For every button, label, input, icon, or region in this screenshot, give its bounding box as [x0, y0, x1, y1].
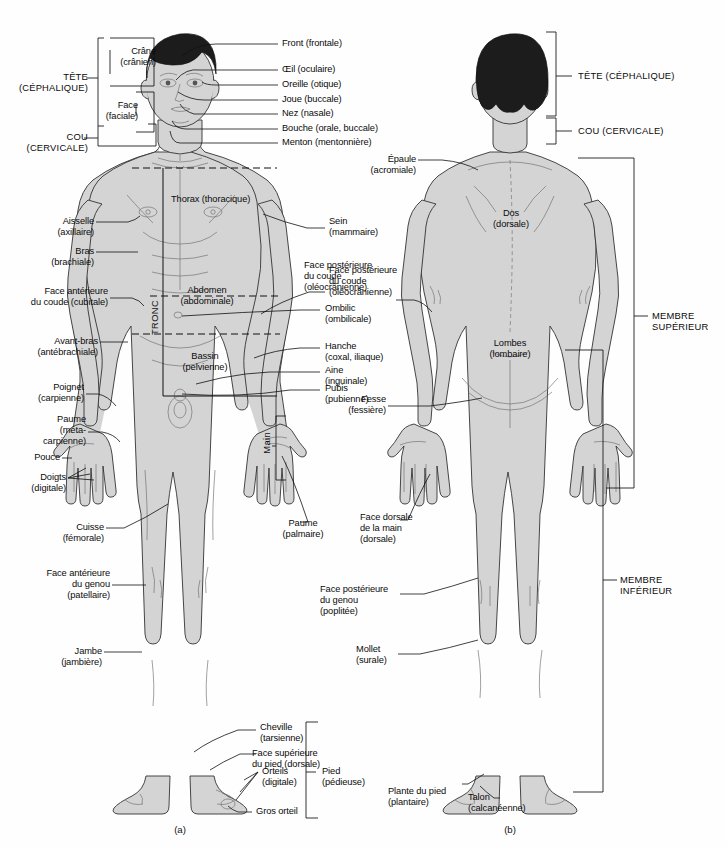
label-nez: Nez (nasale) [282, 108, 334, 119]
label-lombes: Lombes (lombaire) [472, 338, 548, 360]
label-aisselle: Aisselle (axillaire) [16, 216, 94, 238]
label-poignet: Poignet (carpienne) [2, 382, 84, 404]
label-sein: Sein (mammaire) [329, 216, 378, 238]
anatomy-diagram-page: Crâne (crânien) Face (faciale) TÊTE (CÉP… [0, 0, 727, 847]
label-cou-cervicale: COU (CERVICALE) [578, 125, 664, 136]
label-membre-inferieur: MEMBRE INFÉRIEUR [620, 574, 672, 596]
caption-posterior: (b) [480, 824, 540, 835]
label-plante-pied: Plante du pied (plantaire) [388, 786, 446, 808]
label-tete-cephalique: TÊTE (CÉPHALIQUE) [578, 70, 675, 81]
label-face-anterieure-coude: Face antérieure du coude (cubitale) [2, 286, 108, 308]
label-paume-palmaire: Paume (palmaire) [268, 518, 338, 540]
label-hanche: Hanche (coxal, iliaque) [325, 341, 383, 363]
label-face-anterieure-genou: Face antérieure du genou (patellaire) [10, 568, 110, 602]
label-bouche: Bouche (orale, buccale) [282, 123, 378, 134]
label-pied: Pied (pédieuse) [322, 766, 365, 788]
label-epaule: Épaule (acromiale) [354, 154, 416, 176]
label-face-posterieure-genou: Face postérieure du genou (poplitée) [320, 584, 388, 618]
label-gros-orteil: Gros orteil [256, 806, 298, 817]
label-talon: Talon (calcanéenne) [468, 792, 526, 814]
label-face-dorsale-main: Face dorsale de la main (dorsale) [360, 512, 413, 546]
label-cheville: Cheville (tarsienne) [260, 722, 303, 744]
label-oeil: Œil (oculaire) [282, 64, 335, 75]
label-bras: Bras (brachiale) [16, 246, 94, 268]
label-tronc: TRONC [150, 300, 160, 335]
label-pouce: Pouce [16, 452, 60, 463]
label-ombilic: Ombilic (ombilicale) [325, 303, 371, 325]
posterior-figure [388, 34, 633, 814]
label-thorax: Thorax (thoracique) [171, 194, 250, 205]
label-membre-superieur: MEMBRE SUPÉRIEUR [652, 310, 709, 332]
label-bassin: Bassin (pelvienne) [166, 351, 244, 373]
label-doigts: Doigts (digitale) [10, 472, 66, 494]
anterior-figure [54, 34, 307, 814]
label-mollet: Mollet (surale) [356, 644, 387, 666]
label-abdomen: Abdomen (abdominale) [168, 285, 246, 307]
label-fesse: Fesse (fessière) [322, 394, 386, 416]
label-main: Main [262, 432, 272, 454]
label-jambe: Jambe (jambière) [36, 646, 102, 668]
label-menton: Menton (mentonnière) [282, 137, 371, 148]
label-orteils: Orteils (digitale) [262, 766, 297, 788]
label-face: Face (faciale) [82, 100, 138, 122]
label-joue: Joue (buccale) [282, 94, 342, 105]
label-cuisse: Cuisse (fémorale) [40, 522, 104, 544]
label-oreille: Oreille (otique) [282, 79, 341, 90]
label-tete: TÊTE (CÉPHALIQUE) [12, 71, 88, 93]
label-face-posterieure-coude-post: Face postérieure du coude (oléocrânienne… [304, 260, 372, 294]
label-paume-meta: Paume (méta- carpienne) [4, 414, 86, 448]
label-crane: Crâne (crânien) [100, 46, 156, 68]
caption-anterior: (a) [150, 824, 210, 835]
label-front: Front (frontale) [282, 38, 342, 49]
label-avant-bras: Avant-bras (antébrachiale) [6, 336, 98, 358]
label-cou: COU (CERVICALE) [6, 131, 88, 153]
label-dos: Dos (dorsale) [478, 208, 544, 230]
